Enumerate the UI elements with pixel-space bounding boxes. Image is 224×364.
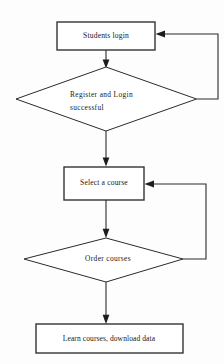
flowchart-diagram: Students login Register and Login succes… bbox=[0, 0, 224, 364]
node-order-courses-label: Order courses bbox=[85, 254, 131, 263]
connector-order-to-learn bbox=[103, 282, 110, 324]
node-register-login-successful-label-line1: Register and Login bbox=[70, 90, 133, 99]
node-students-login[interactable]: Students login bbox=[57, 22, 155, 50]
node-learn-courses-label: Learn courses, download data bbox=[63, 334, 156, 343]
node-order-courses[interactable]: Order courses bbox=[24, 238, 183, 282]
node-select-a-course[interactable]: Select a course bbox=[64, 167, 144, 200]
node-learn-courses[interactable]: Learn courses, download data bbox=[36, 324, 183, 353]
connector-order-back-to-select bbox=[145, 180, 207, 259]
connector-select-to-order bbox=[103, 200, 110, 238]
node-register-login-successful[interactable]: Register and Login successful bbox=[16, 67, 197, 131]
connector-register-to-select bbox=[103, 131, 110, 167]
flowchart-canvas: Students login Register and Login succes… bbox=[0, 0, 224, 364]
node-students-login-label: Students login bbox=[83, 31, 129, 40]
connector-login-to-register bbox=[103, 50, 110, 69]
node-select-a-course-label: Select a course bbox=[80, 178, 128, 187]
node-register-login-successful-label-line2: successful bbox=[70, 103, 104, 112]
